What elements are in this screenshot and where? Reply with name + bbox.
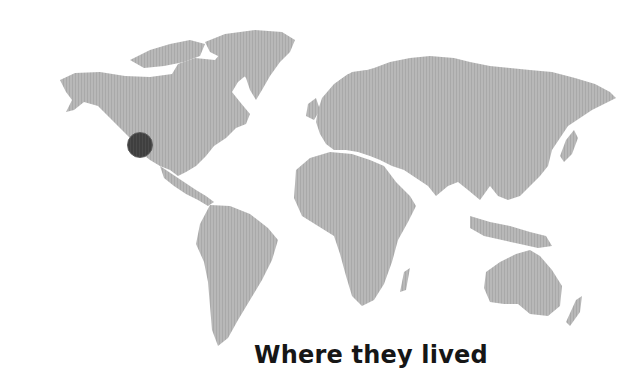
world-map [0, 0, 642, 392]
continent-central-america [160, 166, 214, 206]
continent-southeast-asia-islands [470, 216, 552, 248]
continent-japan [560, 130, 578, 162]
map-caption: Where they lived [254, 341, 488, 369]
continent-australia [484, 250, 562, 316]
location-marker [127, 132, 153, 158]
continent-south-america [196, 205, 278, 346]
continent-africa [294, 152, 416, 306]
continent-madagascar [400, 268, 410, 292]
map-figure: Where they lived [0, 0, 642, 392]
continent-new-zealand [566, 296, 582, 326]
